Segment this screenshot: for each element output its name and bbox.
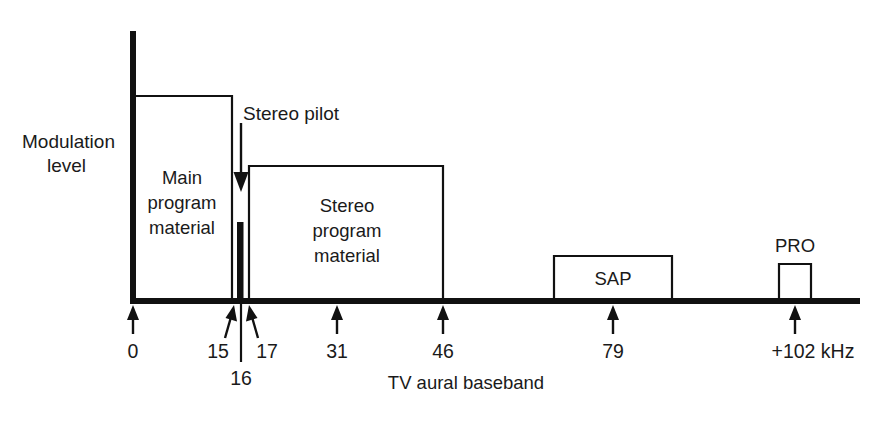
y-axis-label-line2: level bbox=[47, 155, 86, 176]
main-block-label-line1: Main bbox=[162, 167, 202, 188]
tick-label-16: 16 bbox=[230, 367, 252, 389]
tick-label-79: 79 bbox=[602, 340, 624, 362]
stereo-block-label-line2: program bbox=[313, 220, 382, 241]
pro-block-label: PRO bbox=[775, 235, 815, 256]
tick-label-0: 0 bbox=[128, 340, 139, 362]
sap-block-label: SAP bbox=[594, 268, 631, 289]
figure-caption: TV aural baseband bbox=[388, 372, 544, 393]
y-axis-label-line1: Modulation bbox=[22, 131, 115, 152]
tick-label-102: +102 kHz bbox=[772, 340, 855, 362]
main-block-label-line3: material bbox=[149, 217, 215, 238]
stereo-block-label-line1: Stereo bbox=[320, 195, 375, 216]
stereo-pilot-annotation: Stereo pilot bbox=[243, 103, 340, 124]
tick-label-46: 46 bbox=[432, 340, 454, 362]
tick-label-31: 31 bbox=[326, 340, 348, 362]
tv-aural-baseband-figure: Modulation level Stereo pilot Main progr… bbox=[0, 0, 879, 425]
tick-label-15: 15 bbox=[207, 340, 229, 362]
stereo-block-label-line3: material bbox=[314, 245, 380, 266]
main-block-label-line2: program bbox=[148, 192, 217, 213]
baseband-spectrum-chart: Modulation level Stereo pilot Main progr… bbox=[0, 0, 879, 425]
tick-label-17: 17 bbox=[256, 340, 278, 362]
stereo-pilot-spike bbox=[237, 222, 244, 301]
block-pro bbox=[779, 264, 811, 300]
